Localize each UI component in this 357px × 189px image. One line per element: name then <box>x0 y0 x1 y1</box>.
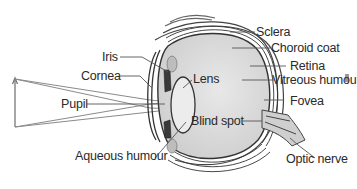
optic-nerve <box>262 110 305 146</box>
label-fovea: Fovea <box>290 94 324 108</box>
label-iris: Iris <box>102 50 118 64</box>
label-sclera: Sclera <box>256 25 290 39</box>
label-optic-nerve: Optic nerve <box>286 152 348 166</box>
label-lens: Lens <box>193 72 219 86</box>
label-blind-spot: Blind spot <box>191 114 244 128</box>
label-vitreous-humour: Vitreous humou <box>272 73 357 87</box>
label-pupil: Pupil <box>61 97 88 111</box>
label-aqueous-humour: Aqueous humour <box>75 149 167 163</box>
object-arrow <box>13 78 18 127</box>
label-cornea: Cornea <box>81 69 121 83</box>
label-retina: Retina <box>290 59 325 73</box>
label-choroid-coat: Choroid coat <box>271 41 339 55</box>
